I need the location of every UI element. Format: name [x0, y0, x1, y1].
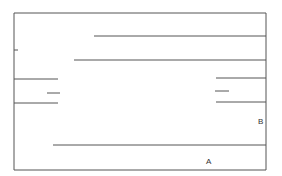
label-b: B	[258, 118, 263, 126]
line-diagram	[0, 0, 282, 176]
label-a: A	[206, 158, 211, 166]
